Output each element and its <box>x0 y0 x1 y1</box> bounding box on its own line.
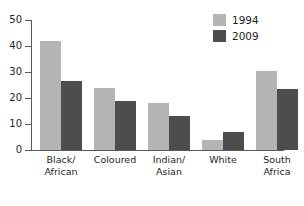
y-tick-label: 40 <box>0 41 22 51</box>
y-tick-mark <box>25 20 32 21</box>
legend-label-2009: 2009 <box>232 31 259 42</box>
legend-item-1994: 1994 <box>213 14 259 26</box>
y-tick-label: 20 <box>0 93 22 103</box>
legend-swatch-2009 <box>213 30 226 42</box>
y-tick-mark <box>25 150 32 151</box>
category-label: White <box>193 154 253 166</box>
bar-group <box>256 20 298 150</box>
category-label: Indian/ Asian <box>139 154 199 177</box>
y-tick-mark <box>25 98 32 99</box>
y-tick-mark <box>25 124 32 125</box>
legend-label-1994: 1994 <box>232 15 259 26</box>
y-tick-label: 0 <box>0 145 22 155</box>
bar-2009 <box>277 89 298 150</box>
bar-group <box>94 20 136 150</box>
bar-1994 <box>40 41 61 150</box>
bar-1994 <box>256 71 277 150</box>
bar-group <box>148 20 190 150</box>
legend-item-2009: 2009 <box>213 30 259 42</box>
bar-1994 <box>148 103 169 150</box>
legend-swatch-1994 <box>213 14 226 26</box>
chart-legend: 1994 2009 <box>213 14 259 46</box>
bar-group <box>40 20 82 150</box>
y-tick-label: 10 <box>0 119 22 129</box>
bar-1994 <box>202 140 223 150</box>
bar-2009 <box>61 81 82 150</box>
category-label: South Africa <box>247 154 304 177</box>
category-label: Black/ African <box>31 154 91 177</box>
bar-2009 <box>223 132 244 150</box>
bar-chart: 01020304050 Black/ AfricanColouredIndian… <box>0 0 304 206</box>
category-label: Coloured <box>85 154 145 166</box>
bar-2009 <box>115 101 136 150</box>
y-tick-label: 50 <box>0 15 22 25</box>
y-tick-mark <box>25 46 32 47</box>
bar-1994 <box>94 88 115 150</box>
x-axis-line <box>31 150 284 151</box>
y-tick-mark <box>25 72 32 73</box>
y-tick-label: 30 <box>0 67 22 77</box>
bar-2009 <box>169 116 190 150</box>
